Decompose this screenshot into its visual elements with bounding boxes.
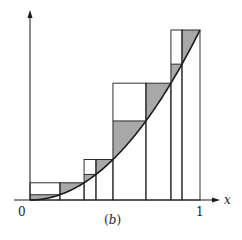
x-axis-label: x (224, 194, 231, 206)
x-axis-arrow-icon (212, 198, 220, 203)
origin-label: 0 (18, 206, 26, 218)
partition-rectangles (30, 30, 200, 200)
shaded-regions (30, 30, 200, 200)
x-end-label: 1 (196, 206, 204, 218)
figure-caption: (b) (104, 214, 121, 226)
riemann-sum-diagram (0, 0, 242, 240)
upper-rectangle (171, 30, 182, 200)
y-axis-arrow-icon (28, 10, 33, 18)
caption-close: ) (116, 213, 121, 227)
curve-y-equals-x-squared (30, 30, 200, 200)
